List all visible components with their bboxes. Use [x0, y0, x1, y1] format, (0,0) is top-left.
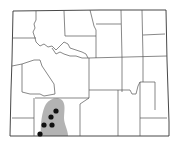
county-borders: [12, 10, 167, 136]
occurrence-point: [48, 114, 53, 119]
occurrence-point: [41, 122, 46, 127]
distribution-range: [41, 98, 68, 136]
occurrence-point: [49, 122, 54, 127]
wyoming-county-map: [0, 0, 180, 145]
occurrence-point: [53, 108, 58, 113]
occurrence-point: [37, 131, 42, 136]
